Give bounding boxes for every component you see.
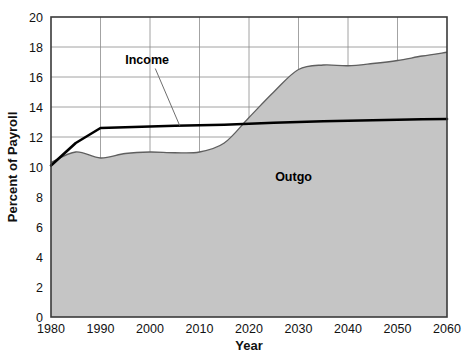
x-tick-label: 1980 [37,322,65,336]
y-tick-label: 18 [29,41,43,55]
x-tick-label: 2060 [433,322,461,336]
chart-container: 02468101214161820 1980199020002010202020… [0,0,467,356]
income-series-label: Income [125,53,169,67]
x-tick-label: 2040 [334,322,362,336]
y-tick-label: 2 [36,281,43,295]
y-tick-label: 20 [29,11,43,25]
x-tick-label: 2020 [235,322,263,336]
y-axis-title: Percent of Payroll [5,112,20,223]
y-tick-label: 10 [29,161,43,175]
income-outgo-area-chart: 02468101214161820 1980199020002010202020… [0,0,467,356]
x-axis-title: Year [235,338,262,353]
y-tick-label: 14 [29,101,43,115]
x-tick-label: 1990 [87,322,115,336]
x-axis-tick-labels: 198019902000201020202030204020502060 [37,322,461,336]
y-tick-label: 12 [29,131,43,145]
y-tick-label: 8 [36,191,43,205]
y-axis-tick-labels: 02468101214161820 [29,11,43,325]
x-tick-label: 2000 [136,322,164,336]
y-tick-label: 6 [36,221,43,235]
y-tick-label: 4 [36,251,43,265]
x-tick-label: 2030 [285,322,313,336]
outgo-series-label: Outgo [275,170,312,184]
y-tick-label: 16 [29,71,43,85]
x-tick-label: 2010 [186,322,214,336]
x-tick-label: 2050 [384,322,412,336]
